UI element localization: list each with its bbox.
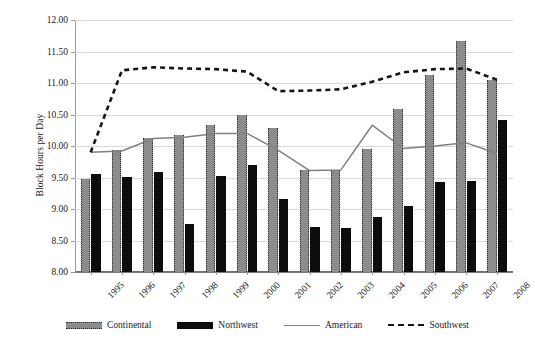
x-axis-tick-mark	[466, 272, 467, 275]
x-axis-tick-label: 2001	[293, 280, 314, 301]
plot-area	[75, 20, 513, 272]
legend-label: American	[325, 320, 362, 330]
x-axis-tick-mark	[122, 272, 123, 275]
x-axis-tick-label: 2006	[449, 280, 470, 301]
x-axis-tick-label: 1997	[168, 280, 189, 301]
legend-item-southwest[interactable]: Southwest	[388, 320, 469, 330]
legend-swatch-icon	[66, 322, 102, 329]
x-axis-tick-label: 2007	[481, 280, 502, 301]
y-axis-tick-label: 8.50	[22, 236, 68, 246]
x-axis-tick-mark	[216, 272, 217, 275]
x-axis-tick-mark	[278, 272, 279, 275]
y-axis-tick-label: 9.50	[22, 173, 68, 183]
legend-label: Southwest	[429, 320, 469, 330]
x-axis-tick-label: 2002	[324, 280, 345, 301]
x-axis-tick-label: 1999	[230, 280, 251, 301]
chart-legend: ContinentalNorthwestAmericanSouthwest	[0, 314, 535, 336]
y-axis-tick-label: 9.00	[22, 204, 68, 214]
legend-label: Northwest	[218, 320, 258, 330]
y-axis-tick-label: 12.00	[22, 15, 68, 25]
x-axis-tick-label: 1996	[136, 280, 157, 301]
legend-item-continental[interactable]: Continental	[66, 320, 151, 330]
y-axis-tick-label: 11.50	[22, 47, 68, 57]
gridline	[75, 272, 513, 273]
x-axis-tick-label: 1998	[199, 280, 220, 301]
y-axis-tick-label: 8.00	[22, 267, 68, 277]
legend-label: Continental	[107, 320, 151, 330]
x-axis-tick-mark	[404, 272, 405, 275]
x-axis-tick-mark	[153, 272, 154, 275]
y-axis-tick-label: 10.50	[22, 110, 68, 120]
legend-swatch-icon	[284, 325, 320, 326]
y-axis-tick-label: 11.00	[22, 78, 68, 88]
x-axis-tick-label: 2004	[387, 280, 408, 301]
x-axis-tick-mark	[185, 272, 186, 275]
chart-container: Block Hours per Day 12.0011.5011.0010.50…	[0, 0, 535, 352]
x-axis-tick-mark	[497, 272, 498, 275]
x-axis-tick-mark	[435, 272, 436, 275]
x-axis-tick-mark	[372, 272, 373, 275]
legend-item-american[interactable]: American	[284, 320, 362, 330]
x-axis-tick-mark	[310, 272, 311, 275]
x-axis-tick-label: 2000	[262, 280, 283, 301]
y-axis-tick-label: 10.00	[22, 141, 68, 151]
x-axis-tick-label: 2003	[355, 280, 376, 301]
legend-item-northwest[interactable]: Northwest	[177, 320, 258, 330]
line-american	[91, 125, 498, 170]
x-axis-tick-labels: 1995199619971998199920002001200220032004…	[75, 274, 513, 316]
legend-swatch-icon	[388, 324, 424, 326]
x-axis-tick-label: 2005	[418, 280, 439, 301]
line-series-layer	[75, 20, 513, 272]
x-axis-tick-mark	[247, 272, 248, 275]
x-axis-tick-mark	[341, 272, 342, 275]
legend-swatch-icon	[177, 322, 213, 329]
x-axis-tick-label: 1995	[105, 280, 126, 301]
x-axis-tick-mark	[91, 272, 92, 275]
